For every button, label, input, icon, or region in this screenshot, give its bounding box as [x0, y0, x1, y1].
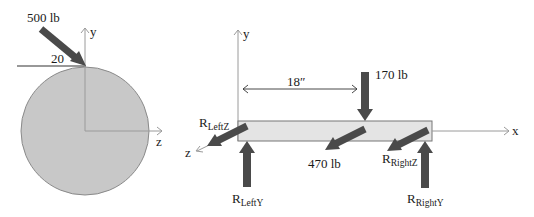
diagram-svg: y z 500 lb 20 y x	[0, 0, 534, 217]
beam-x-label: x	[512, 123, 519, 138]
beam-y-label: y	[243, 26, 250, 41]
reaction-right-z-label: RRightZ	[382, 151, 418, 168]
angle-label: 20	[51, 51, 64, 66]
reaction-left-y-label: RLeftY	[232, 191, 263, 208]
dimension-label: 18″	[287, 74, 305, 89]
cross-section-y-label: y	[90, 24, 97, 39]
beam-body	[238, 121, 432, 141]
reaction-left-z-label: RLeftZ	[199, 115, 229, 132]
cross-section-z-label: z	[156, 134, 162, 149]
load-170lb-arrow-icon	[357, 72, 373, 121]
beam-view: y x z 18″ 170 lb	[185, 26, 519, 208]
beam-z-label: z	[185, 145, 191, 160]
load-470lb-label: 470 lb	[308, 156, 341, 171]
cross-section-view: y z 500 lb 20	[17, 10, 162, 195]
free-body-diagram: y z 500 lb 20 y x	[0, 0, 534, 217]
load-170lb-label: 170 lb	[375, 67, 408, 82]
reaction-left-y-arrow-icon	[239, 141, 255, 187]
beam-x-axis-arrow-icon	[432, 127, 509, 135]
reaction-right-y-arrow-icon	[417, 141, 433, 188]
force-500lb-label: 500 lb	[27, 10, 60, 25]
reaction-right-y-label: RRightY	[407, 191, 444, 208]
